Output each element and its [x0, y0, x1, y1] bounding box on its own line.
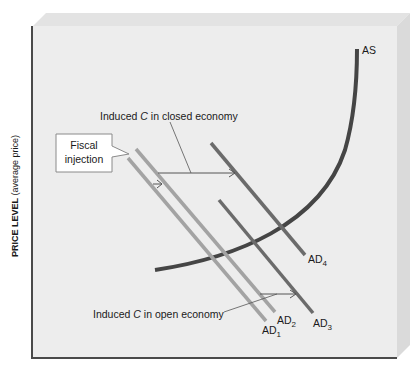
y-axis-label-bold: PRICE LEVEL [10, 197, 20, 257]
open-economy-label: Induced C in open economy [93, 308, 225, 320]
frame-side-face [397, 13, 410, 358]
closed-economy-label: Induced C in closed economy [100, 110, 239, 122]
y-axis-label-paren: (average price) [10, 135, 20, 198]
frame-top-face [33, 13, 410, 26]
as-label: AS [362, 44, 376, 56]
y-axis-label: PRICE LEVEL (average price) [10, 135, 20, 257]
callout-line1: Fiscal [70, 139, 97, 151]
callout-line2: injection [65, 153, 104, 165]
aggregate-demand-diagram: PRICE LEVEL (average price) AS AD1 AD2 A… [0, 0, 416, 370]
